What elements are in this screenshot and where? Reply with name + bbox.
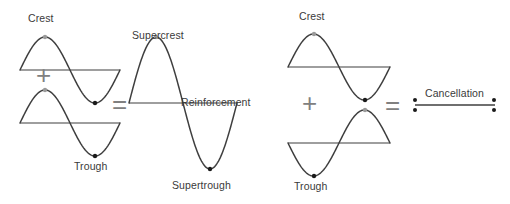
cancel-dot-right-upper xyxy=(492,98,496,102)
label-cancellation: Cancellation xyxy=(425,87,484,99)
crest-marker-top-left xyxy=(43,35,47,39)
operator-plus-left: + xyxy=(36,62,51,88)
label-supercrest: Supercrest xyxy=(132,29,184,41)
crest-marker-bottom-right xyxy=(363,108,367,112)
crest-marker-top-right xyxy=(312,32,316,36)
operator-equals-right: = xyxy=(385,92,400,118)
label-crest-right: Crest xyxy=(299,10,325,22)
trough-marker-bottom-left xyxy=(93,154,97,158)
cancel-dot-right-lower xyxy=(492,108,496,112)
cancel-dot-left-lower xyxy=(413,108,417,112)
supertrough-marker xyxy=(208,167,212,171)
operator-plus-right: + xyxy=(302,90,317,116)
label-supertrough: Supertrough xyxy=(172,179,231,191)
wave-canvas xyxy=(0,0,510,204)
waves-layer xyxy=(20,34,495,176)
trough-marker-bottom-right xyxy=(312,174,316,178)
trough-marker-top-left xyxy=(93,101,97,105)
label-trough-left: Trough xyxy=(74,160,107,172)
trough-marker-top-right xyxy=(363,98,367,102)
cancel-dot-left-upper xyxy=(413,98,417,102)
label-trough-right: Trough xyxy=(294,180,327,192)
operator-equals-left: = xyxy=(112,91,127,117)
label-reinforcement: Reinforcement xyxy=(181,96,251,108)
wave-interference-diagram: Crest + Trough = Supercrest Reinforcemen… xyxy=(0,0,510,204)
label-crest-left: Crest xyxy=(28,12,54,24)
